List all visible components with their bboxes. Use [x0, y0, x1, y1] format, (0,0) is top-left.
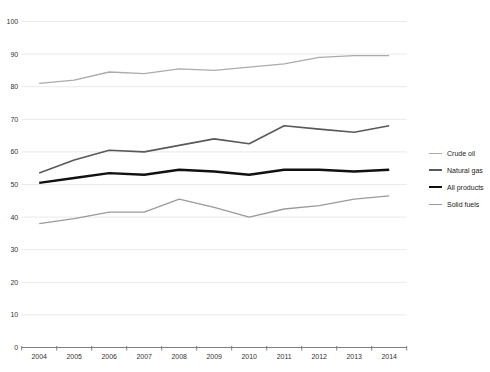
legend-item-natural-gas: Natural gas	[429, 165, 484, 175]
y-tick-label: 20	[10, 279, 18, 286]
natural-gas-line	[39, 126, 389, 173]
x-tick-label: 2007	[136, 353, 152, 360]
legend-label-solid-fuels: Solid fuels	[447, 201, 479, 208]
legend-item-all-products: All products	[429, 182, 484, 192]
x-tick-label: 2012	[311, 353, 327, 360]
y-tick-label: 0	[14, 344, 18, 351]
plot-area: 0102030405060708090100200420052006200720…	[0, 0, 490, 372]
solid-fuels-line	[39, 196, 389, 224]
legend-item-solid-fuels: Solid fuels	[429, 199, 484, 209]
x-tick-label: 2010	[241, 353, 257, 360]
x-tick-label: 2013	[346, 353, 362, 360]
x-tick-label: 2004	[31, 353, 47, 360]
y-tick-label: 30	[10, 246, 18, 253]
y-tick-label: 70	[10, 116, 18, 123]
y-tick-label: 40	[10, 214, 18, 221]
y-tick-label: 10	[10, 311, 18, 318]
legend-label-crude-oil: Crude oil	[447, 150, 475, 157]
legend-label-all-products: All products	[447, 184, 484, 191]
legend-label-natural-gas: Natural gas	[447, 167, 483, 174]
x-tick-label: 2011	[277, 353, 292, 360]
crude-oil-line	[39, 56, 389, 84]
crude-oil-line-swatch	[429, 153, 442, 154]
chart-legend: Crude oil Natural gas All products Solid…	[429, 148, 484, 209]
y-tick-label: 60	[10, 148, 18, 155]
natural-gas-line-swatch	[429, 169, 442, 171]
solid-fuels-line-swatch	[429, 204, 442, 205]
x-tick-label: 2009	[206, 353, 222, 360]
x-tick-label: 2014	[381, 353, 397, 360]
legend-item-crude-oil: Crude oil	[429, 148, 484, 158]
y-tick-label: 90	[10, 51, 18, 58]
line-chart: 0102030405060708090100200420052006200720…	[0, 0, 490, 372]
all-products-line-swatch	[429, 186, 442, 188]
y-tick-label: 100	[7, 18, 19, 25]
y-tick-label: 50	[10, 181, 18, 188]
x-tick-label: 2008	[171, 353, 187, 360]
x-tick-label: 2005	[66, 353, 82, 360]
all-products-line	[39, 170, 389, 183]
y-tick-label: 80	[10, 83, 18, 90]
x-tick-label: 2006	[101, 353, 117, 360]
